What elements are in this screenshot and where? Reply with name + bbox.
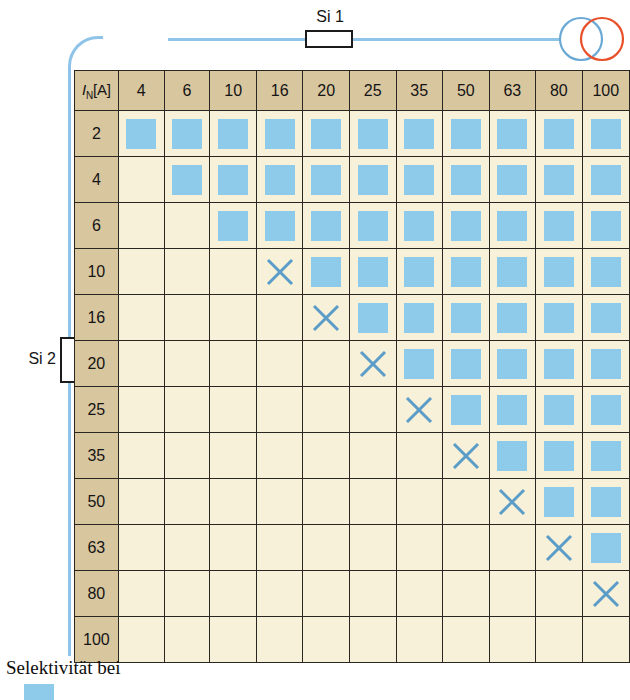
- matrix-cell-selective: [489, 111, 536, 157]
- matrix-cell-empty: [210, 249, 257, 295]
- matrix-cell-empty: [118, 525, 164, 571]
- matrix-cell-selective: [396, 341, 443, 387]
- matrix-cell-empty: [164, 295, 210, 341]
- matrix-row: 50: [75, 479, 630, 525]
- matrix-cell-nonselective: [536, 525, 583, 571]
- filled-square-icon: [591, 533, 621, 563]
- matrix-cell-empty: [256, 571, 303, 617]
- filled-square-icon: [126, 119, 156, 149]
- filled-square-icon: [265, 119, 295, 149]
- matrix-cell-selective: [210, 157, 257, 203]
- matrix-cell-empty: [349, 617, 396, 663]
- filled-square-icon: [451, 395, 481, 425]
- matrix-cell-selective: [582, 433, 629, 479]
- matrix-cell-empty: [118, 617, 164, 663]
- filled-square-icon: [404, 303, 434, 333]
- wire-corner-top-left: [68, 36, 103, 71]
- matrix-cell-empty: [256, 387, 303, 433]
- matrix-cell-selective: [536, 433, 583, 479]
- matrix-cell-selective: [164, 157, 210, 203]
- matrix-cell-empty: [489, 617, 536, 663]
- matrix-cell-empty: [118, 249, 164, 295]
- filled-square-icon: [544, 119, 574, 149]
- filled-square-icon: [591, 441, 621, 471]
- matrix-cell-empty: [396, 617, 443, 663]
- filled-square-icon: [358, 303, 388, 333]
- matrix-cell-selective: [349, 203, 396, 249]
- filled-square-icon: [544, 303, 574, 333]
- filled-square-icon: [404, 349, 434, 379]
- filled-square-icon: [544, 211, 574, 241]
- matrix-cell-selective: [210, 203, 257, 249]
- x-cross-icon: [589, 577, 623, 611]
- overlapping-circles-generator-icon: [556, 14, 628, 64]
- filled-square-icon: [218, 211, 248, 241]
- matrix-cell-empty: [256, 617, 303, 663]
- matrix-cell-empty: [210, 433, 257, 479]
- matrix-cell-selective: [349, 111, 396, 157]
- matrix-row-header: 6: [75, 203, 119, 249]
- matrix-cell-empty: [536, 617, 583, 663]
- x-cross-icon: [356, 347, 390, 381]
- filled-square-icon: [358, 165, 388, 195]
- matrix-cell-selective: [582, 479, 629, 525]
- matrix-cell-selective: [582, 111, 629, 157]
- matrix-cell-nonselective: [303, 295, 350, 341]
- filled-square-icon: [591, 349, 621, 379]
- filled-square-icon: [591, 211, 621, 241]
- matrix-row-header: 10: [75, 249, 119, 295]
- matrix-cell-empty: [118, 433, 164, 479]
- filled-square-icon: [544, 395, 574, 425]
- matrix-cell-selective: [489, 295, 536, 341]
- matrix-cell-empty: [443, 571, 490, 617]
- matrix-cell-empty: [118, 479, 164, 525]
- matrix-cell-empty: [256, 433, 303, 479]
- matrix-row: 20: [75, 341, 630, 387]
- matrix-cell-empty: [489, 571, 536, 617]
- filled-square-icon: [404, 257, 434, 287]
- selectivity-diagram-page: Si 1 Si 2 IN[A]4610162025355063801002461…: [0, 0, 630, 700]
- matrix-cell-selective: [536, 157, 583, 203]
- matrix-cell-empty: [349, 571, 396, 617]
- filled-square-icon: [591, 257, 621, 287]
- matrix-cell-selective: [443, 249, 490, 295]
- matrix-cell-empty: [210, 341, 257, 387]
- matrix-column-header: 6: [164, 71, 210, 111]
- matrix-row: 25: [75, 387, 630, 433]
- matrix-cell-selective: [303, 111, 350, 157]
- matrix-cell-empty: [164, 525, 210, 571]
- caption-text: Selektivität bei: [6, 657, 121, 679]
- matrix-row-header: 20: [75, 341, 119, 387]
- filled-square-icon: [451, 165, 481, 195]
- matrix-header-row: IN[A]461016202535506380100: [75, 71, 630, 111]
- matrix-cell-selective: [582, 157, 629, 203]
- matrix-cell-selective: [582, 525, 629, 571]
- matrix-cell-selective: [396, 111, 443, 157]
- x-cross-icon: [402, 393, 436, 427]
- matrix-cell-empty: [164, 249, 210, 295]
- matrix-corner-header: IN[A]: [75, 71, 119, 111]
- filled-square-icon: [497, 119, 527, 149]
- matrix-cell-empty: [210, 617, 257, 663]
- matrix-column-header: 4: [118, 71, 164, 111]
- matrix-cell-selective: [443, 341, 490, 387]
- matrix-cell-nonselective: [396, 387, 443, 433]
- downstream-fuse-label: Si 2: [8, 350, 56, 368]
- wire-segment-top: [168, 38, 560, 41]
- matrix-row: 6: [75, 203, 630, 249]
- matrix-cell-empty: [256, 479, 303, 525]
- matrix-cell-nonselective: [349, 341, 396, 387]
- filled-square-icon: [451, 257, 481, 287]
- filled-square-icon: [451, 349, 481, 379]
- matrix-row: 16: [75, 295, 630, 341]
- filled-square-icon: [497, 349, 527, 379]
- filled-square-icon: [451, 211, 481, 241]
- matrix-cell-empty: [164, 387, 210, 433]
- matrix-cell-selective: [536, 249, 583, 295]
- matrix-cell-selective: [396, 295, 443, 341]
- matrix-cell-empty: [164, 433, 210, 479]
- filled-square-icon: [172, 165, 202, 195]
- matrix-cell-selective: [303, 157, 350, 203]
- matrix-column-header: 10: [210, 71, 257, 111]
- filled-square-icon: [497, 395, 527, 425]
